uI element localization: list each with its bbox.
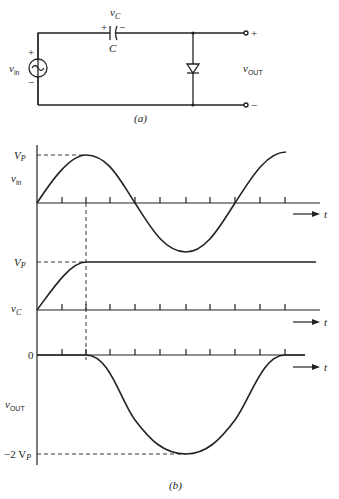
clamper-figure: vC + − C + − vin + − vOUT (a) — [0, 0, 339, 499]
capacitor-label: C — [109, 42, 117, 54]
svg-text:vC: vC — [11, 302, 22, 317]
source-label: vin — [9, 62, 19, 76]
source-plus: + — [28, 46, 34, 58]
source-minus: − — [28, 76, 34, 88]
svg-text:vin: vin — [11, 172, 21, 186]
vout-curve — [37, 355, 305, 454]
svg-text:vC: vC — [110, 6, 121, 21]
svg-text:t: t — [324, 361, 328, 373]
svg-text:0: 0 — [28, 349, 34, 361]
vc-curve — [37, 262, 316, 310]
output-terminal-minus — [244, 103, 248, 107]
caption-a: (a) — [134, 112, 147, 125]
svg-text:t: t — [324, 208, 328, 220]
svg-text:t: t — [324, 316, 328, 328]
svg-text:vOUT: vOUT — [5, 398, 25, 412]
output-label: vOUT — [243, 62, 263, 76]
output-terminal-plus — [244, 31, 248, 35]
svg-text:VP: VP — [14, 256, 26, 270]
circuit-diagram — [29, 26, 248, 107]
caption-b: (b) — [169, 479, 182, 492]
svg-text:VP: VP — [14, 149, 26, 163]
cap-plus: + — [101, 21, 107, 33]
diode-icon — [187, 64, 199, 73]
svg-text:−: − — [251, 99, 257, 111]
svg-text:+: + — [251, 27, 257, 39]
vin-curve — [37, 152, 286, 252]
svg-text:−2 VP: −2 VP — [4, 448, 31, 462]
waveform-plots — [37, 145, 320, 465]
cap-minus: − — [119, 21, 125, 33]
